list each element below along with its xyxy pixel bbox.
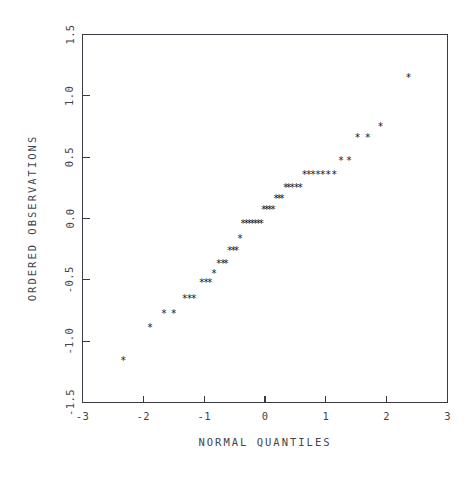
data-point: * — [365, 132, 371, 143]
data-points: ****************************************… — [120, 72, 411, 366]
data-point: * — [297, 182, 303, 193]
data-point: * — [223, 258, 229, 269]
data-point: * — [270, 204, 276, 215]
data-point: * — [171, 308, 177, 319]
x-tick-label-2: -1 — [197, 410, 210, 422]
data-point: * — [354, 132, 360, 143]
data-point: * — [233, 245, 239, 256]
x-axis-tick-labels: -3-2-10123 — [76, 410, 451, 422]
y-axis-ticks — [83, 96, 90, 341]
y-tick-label-3: 0.0 — [64, 208, 76, 228]
y-tick-label-0: -1.5 — [64, 389, 76, 416]
y-axis-title: ORDERED OBSERVATIONS — [26, 135, 38, 301]
data-point: * — [258, 218, 264, 229]
x-axis-title: NORMAL QUANTILES — [198, 436, 331, 448]
y-tick-label-1: -1.0 — [64, 328, 76, 355]
x-tick-label-4: 1 — [322, 410, 329, 422]
data-point: * — [120, 355, 126, 366]
x-tick-label-5: 2 — [383, 410, 390, 422]
data-point: * — [191, 293, 197, 304]
y-axis-tick-labels: -1.5-1.0-0.50.00.51.01.5 — [64, 24, 76, 416]
y-tick-label-4: 0.5 — [64, 147, 76, 167]
data-point: * — [211, 268, 217, 279]
data-point: * — [161, 308, 167, 319]
data-point: * — [331, 169, 337, 180]
plot-canvas: -3-2-10123 -1.5-1.0-0.50.00.51.01.5 ****… — [0, 0, 471, 478]
x-tick-label-0: -3 — [76, 410, 89, 422]
data-point: * — [147, 322, 153, 333]
x-tick-label-1: -2 — [137, 410, 150, 422]
data-point: * — [237, 233, 243, 244]
y-tick-label-5: 1.0 — [64, 86, 76, 106]
data-point: * — [338, 155, 344, 166]
axes-frame — [83, 35, 448, 403]
qq-plot-figure: -3-2-10123 -1.5-1.0-0.50.00.51.01.5 ****… — [0, 0, 471, 478]
data-point: * — [279, 193, 285, 204]
x-tick-label-6: 3 — [444, 410, 451, 422]
data-point: * — [378, 121, 384, 132]
y-tick-label-6: 1.5 — [64, 24, 76, 44]
x-tick-label-3: 0 — [262, 410, 269, 422]
data-point: * — [406, 72, 412, 83]
plot-frame — [83, 35, 448, 403]
data-point: * — [346, 155, 352, 166]
y-tick-label-2: -0.5 — [64, 266, 76, 293]
x-axis-ticks — [143, 396, 386, 403]
